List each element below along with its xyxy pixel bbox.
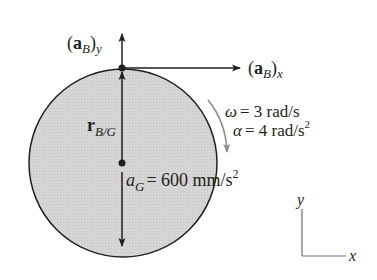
coordinate-axes: y x <box>295 191 356 264</box>
aBx-label: (aB)x <box>248 58 283 81</box>
alpha-label: α= 4 rad/s2 <box>233 118 310 140</box>
y-axis-label: y <box>295 191 305 209</box>
aBy-label: (aB)y <box>67 33 102 56</box>
disk-diagram: (aB)y (aB)x rB/G ω= 3 rad/s α= 4 rad/s2 … <box>0 0 377 280</box>
x-axis-label: x <box>348 247 356 264</box>
point-G <box>119 160 126 167</box>
omega-label: ω= 3 rad/s <box>225 102 300 121</box>
point-B <box>119 65 126 72</box>
